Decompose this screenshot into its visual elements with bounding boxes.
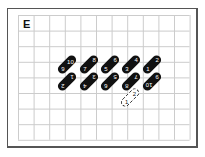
pill-number: 1 [146, 66, 149, 72]
pill-number: 1 [70, 74, 73, 80]
pill-number: 9 [61, 66, 64, 72]
pill-number: 2 [61, 83, 64, 89]
pill-number: 2 [155, 57, 158, 63]
pill-number: 5 [104, 66, 107, 72]
pill-number: 4 [134, 57, 137, 63]
pill-number: 10 [145, 82, 152, 88]
pill-number: 7 [134, 74, 137, 80]
pill-number: 2 [132, 91, 135, 97]
pill-number: 9 [155, 74, 158, 80]
pill-number: 6 [113, 57, 116, 63]
pill-number: 8 [92, 57, 95, 63]
pill-number: 3 [125, 66, 128, 72]
pill-number: 8 [125, 83, 128, 89]
panel-label: E [23, 18, 30, 30]
pill-number: 10 [67, 58, 74, 64]
pill-number: 5 [113, 74, 116, 80]
pill-number: 3 [92, 74, 95, 80]
pill-number: 1 [125, 98, 128, 104]
pill-number: 7 [83, 66, 86, 72]
pill-number: 4 [83, 83, 86, 89]
pill-number: 6 [104, 83, 107, 89]
